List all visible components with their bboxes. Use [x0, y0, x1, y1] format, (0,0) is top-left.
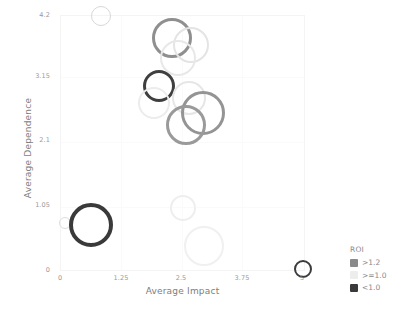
y-tick-label-4: 4.2 — [16, 11, 50, 19]
gridline-vertical — [242, 16, 243, 270]
y-tick-label-0: 0 — [16, 266, 50, 274]
data-point-marker — [166, 105, 206, 145]
y-tick-label-3: 3.15 — [16, 72, 50, 80]
x-tick-label-4: 5 — [282, 274, 322, 282]
legend-item-gt-1-2[interactable]: >1.2 — [350, 258, 405, 267]
legend-swatch-gte-1-0 — [350, 271, 358, 279]
legend-label-gte-1-0: >=1.0 — [362, 271, 387, 280]
x-tick-label-1: 1.25 — [101, 274, 141, 282]
data-point-marker — [184, 226, 224, 266]
data-point-marker — [91, 6, 111, 26]
y-tick-label-1: 1.05 — [16, 201, 50, 209]
plot-area — [60, 15, 305, 271]
legend: ROI >1.2 >=1.0 <1.0 — [350, 245, 405, 296]
data-point-marker — [138, 87, 170, 119]
legend-label-gt-1-2: >1.2 — [362, 258, 380, 267]
x-tick-label-0: 0 — [40, 274, 80, 282]
gridline-horizontal — [61, 77, 304, 78]
x-tick-label-3: 3.75 — [222, 274, 262, 282]
legend-title: ROI — [350, 245, 405, 254]
legend-label-lt-1-0: <1.0 — [362, 283, 380, 292]
legend-item-gte-1-0[interactable]: >=1.0 — [350, 271, 405, 280]
legend-item-lt-1-0[interactable]: <1.0 — [350, 283, 405, 292]
legend-swatch-lt-1-0 — [350, 284, 358, 292]
data-point-marker — [69, 203, 113, 247]
x-tick-label-2: 2.5 — [161, 274, 201, 282]
data-point-marker — [170, 195, 196, 221]
y-tick-label-2: 2.1 — [16, 136, 50, 144]
x-axis-title: Average Impact — [60, 286, 305, 296]
y-axis-title: Average Dependence — [23, 68, 33, 228]
legend-swatch-gt-1-2 — [350, 259, 358, 267]
chart-root: 4.2 3.15 2.1 1.05 0 Average Dependence 0… — [0, 0, 405, 311]
gridline-vertical — [121, 16, 122, 270]
